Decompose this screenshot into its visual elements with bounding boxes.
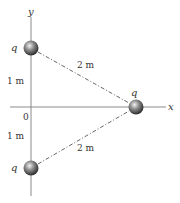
charge-bottom (24, 161, 39, 176)
origin-label: 0 (23, 112, 29, 122)
charge-top-label: q (11, 42, 17, 53)
x-axis-label: x (168, 101, 174, 112)
charge-diagram: y x 0 q q q 1 m 1 m 2 m 2 m (0, 0, 180, 203)
charge-right-label: q (131, 87, 137, 98)
distance-bottom-right: 2 m (77, 143, 95, 153)
dashed-line-bottom-right (38, 111, 129, 164)
charge-top (24, 41, 39, 56)
charge-right (129, 100, 144, 115)
charge-bottom-label: q (11, 162, 17, 173)
distance-top-origin: 1 m (7, 76, 25, 86)
distance-bottom-origin: 1 m (7, 131, 25, 141)
y-axis-label: y (27, 6, 34, 17)
distance-top-right: 2 m (77, 60, 95, 70)
